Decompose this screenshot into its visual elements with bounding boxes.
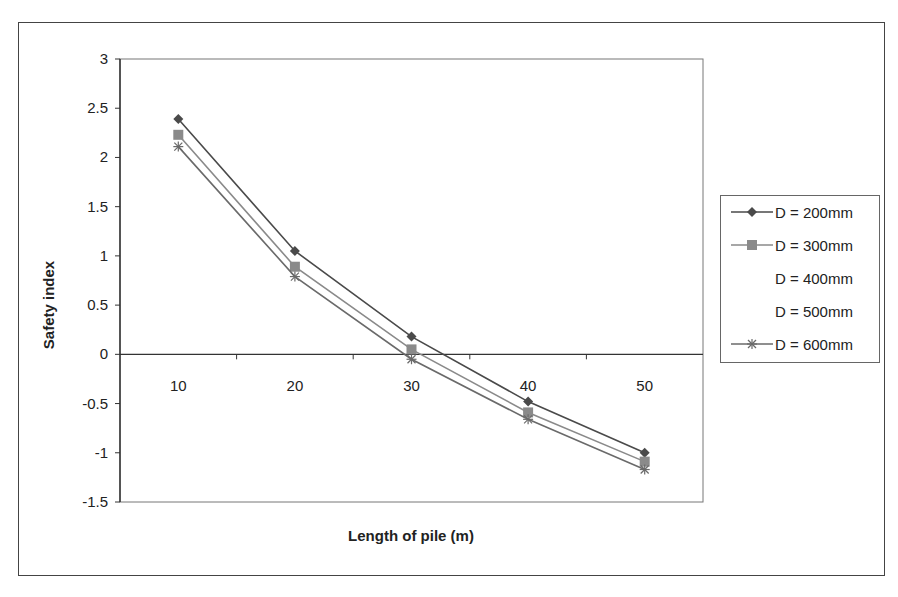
star-marker-icon <box>290 272 300 282</box>
y-tick-label: 0 <box>100 345 108 362</box>
legend-label: D = 500mm <box>775 303 853 320</box>
square-marker-icon <box>747 240 757 250</box>
y-tick-label: 1.5 <box>87 198 108 215</box>
diamond-marker-icon <box>731 200 773 224</box>
blank-marker-icon <box>731 266 773 290</box>
diamond-marker-icon <box>747 207 757 217</box>
legend-label: D = 300mm <box>775 237 853 254</box>
legend-item-d400: D = 400mm <box>721 266 881 290</box>
plot-area: 32.521.510.50-0.5-1-1.51020304050 <box>82 50 703 510</box>
x-tick-label: 50 <box>636 377 653 394</box>
legend-label: D = 400mm <box>775 270 853 287</box>
y-tick-label: -0.5 <box>82 395 108 412</box>
square-marker-icon <box>173 130 183 140</box>
x-tick-label: 30 <box>403 377 420 394</box>
legend-label: D = 600mm <box>775 336 853 353</box>
legend-item-d300: D = 300mm <box>721 233 881 257</box>
x-axis-title: Length of pile (m) <box>348 527 474 544</box>
star-marker-icon <box>407 354 417 364</box>
square-marker-icon <box>731 233 773 257</box>
star-marker-icon <box>640 465 650 475</box>
y-tick-label: 1 <box>100 247 108 264</box>
legend-item-d200: D = 200mm <box>721 200 881 224</box>
star-marker-icon <box>173 142 183 152</box>
square-marker-icon <box>407 344 417 354</box>
legend: D = 200mm D = 300mm D = 400mm D = 500mm … <box>720 195 880 363</box>
y-tick-label: -1 <box>95 444 108 461</box>
square-marker-icon <box>290 262 300 272</box>
y-tick-label: -1.5 <box>82 493 108 510</box>
plot-border <box>120 59 703 502</box>
y-tick-label: 0.5 <box>87 296 108 313</box>
y-tick-label: 2.5 <box>87 99 108 116</box>
star-marker-icon <box>747 339 757 349</box>
x-tick-label: 20 <box>287 377 304 394</box>
star-marker-icon <box>731 332 773 356</box>
y-tick-label: 3 <box>100 50 108 67</box>
y-tick-label: 2 <box>100 148 108 165</box>
legend-label: D = 200mm <box>775 204 853 221</box>
y-axis-title: Safety index <box>40 260 57 349</box>
legend-item-d500: D = 500mm <box>721 299 881 323</box>
blank-marker-icon <box>731 299 773 323</box>
x-tick-label: 40 <box>520 377 537 394</box>
legend-item-d600: D = 600mm <box>721 332 881 356</box>
x-tick-label: 10 <box>170 377 187 394</box>
star-marker-icon <box>523 414 533 424</box>
